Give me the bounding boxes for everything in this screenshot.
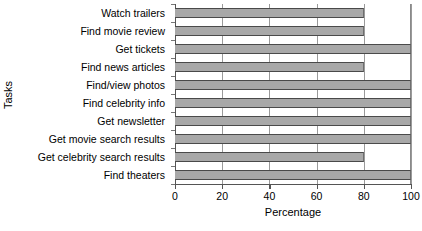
x-axis-tick-label: 0 bbox=[172, 190, 178, 202]
y-axis-tick-label: Get tickets bbox=[16, 40, 170, 58]
x-axis-title: Percentage bbox=[175, 206, 411, 218]
bar-row bbox=[175, 22, 411, 40]
bar bbox=[175, 26, 364, 36]
bar-row bbox=[175, 112, 411, 130]
y-axis-tick-label: Find news articles bbox=[16, 58, 170, 76]
y-axis-tick-label: Get celebrity search results bbox=[16, 148, 170, 166]
x-axis-tick bbox=[175, 184, 176, 189]
x-axis-tick-label: 40 bbox=[264, 190, 276, 202]
bar bbox=[175, 134, 411, 144]
x-axis-tick bbox=[269, 184, 270, 189]
x-axis-tick-label: 60 bbox=[311, 190, 323, 202]
y-axis-title-text: Tasks bbox=[2, 81, 14, 109]
x-axis-tick-label: 20 bbox=[216, 190, 228, 202]
bar-row bbox=[175, 94, 411, 112]
gridline bbox=[411, 4, 412, 184]
x-axis-tick bbox=[222, 184, 223, 189]
bar-series bbox=[175, 4, 411, 184]
bar bbox=[175, 44, 411, 54]
bar-row bbox=[175, 4, 411, 22]
bar bbox=[175, 98, 411, 108]
x-axis-tick bbox=[364, 184, 365, 189]
y-axis-tick-labels: Watch trailersFind movie reviewGet ticke… bbox=[16, 4, 170, 184]
y-axis-tick-label: Find celebrity info bbox=[16, 94, 170, 112]
x-axis-tick-label: 80 bbox=[358, 190, 370, 202]
bar bbox=[175, 116, 411, 126]
bar-row bbox=[175, 40, 411, 58]
plot-area bbox=[175, 4, 411, 184]
y-axis-tick-label: Find theaters bbox=[16, 166, 170, 184]
x-axis-tick bbox=[317, 184, 318, 189]
y-axis-tick-label: Get newsletter bbox=[16, 112, 170, 130]
bar bbox=[175, 152, 364, 162]
x-axis-tick-label: 100 bbox=[402, 190, 420, 202]
bar-row bbox=[175, 130, 411, 148]
bar-row bbox=[175, 76, 411, 94]
y-axis-tick-label: Find/view photos bbox=[16, 76, 170, 94]
y-axis-tick-label: Get movie search results bbox=[16, 130, 170, 148]
x-axis-tick bbox=[411, 184, 412, 189]
y-axis-tick-label: Watch trailers bbox=[16, 4, 170, 22]
bar-row bbox=[175, 58, 411, 76]
bar bbox=[175, 80, 411, 90]
y-axis-tick-label: Find movie review bbox=[16, 22, 170, 40]
bar-chart: Tasks Watch trailersFind movie reviewGet… bbox=[0, 0, 422, 231]
bar bbox=[175, 8, 364, 18]
x-axis-line bbox=[175, 184, 411, 185]
bar bbox=[175, 170, 411, 180]
bar-row bbox=[175, 148, 411, 166]
y-axis-title: Tasks bbox=[0, 0, 16, 190]
bar bbox=[175, 62, 364, 72]
bar-row bbox=[175, 166, 411, 184]
